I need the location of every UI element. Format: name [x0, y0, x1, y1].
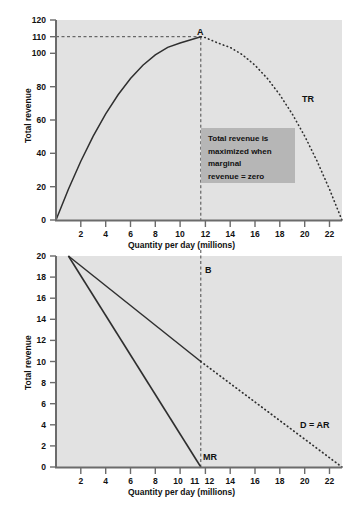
upper-x-tick-22: 22 — [322, 230, 338, 239]
upper-y-tick-100: 100 — [24, 49, 46, 58]
point-a-label: A — [197, 28, 204, 37]
lower-x-tick-8: 8 — [147, 477, 163, 486]
lower-y-tick-0: 0 — [24, 463, 46, 472]
lower-x-tick-11: 11 — [187, 477, 203, 486]
point-b-label: B — [205, 266, 212, 275]
upper-y-tick-80: 80 — [24, 83, 46, 92]
upper-x-tick-12: 12 — [197, 230, 213, 239]
plot-area-background — [56, 256, 342, 467]
d-ar-curve-label: D = AR — [300, 421, 329, 430]
upper-x-tick-10: 10 — [172, 230, 188, 239]
annotation-callout: Total revenue is maximized when marginal… — [201, 128, 295, 183]
lower-x-tick-16: 16 — [247, 477, 263, 486]
upper-x-tick-16: 16 — [247, 230, 263, 239]
lower-x-tick-20: 20 — [297, 477, 313, 486]
upper-y-tick-110: 110 — [24, 33, 46, 42]
marginal-revenue-plot — [0, 250, 363, 507]
upper-x-tick-8: 8 — [147, 230, 163, 239]
upper-x-tick-4: 4 — [98, 230, 114, 239]
lower-y-tick-6: 6 — [24, 400, 46, 409]
tr-curve-label: TR — [302, 95, 314, 104]
lower-y-tick-2: 2 — [24, 442, 46, 451]
lower-x-tick-2: 2 — [73, 477, 89, 486]
lower-y-tick-20: 20 — [24, 252, 46, 261]
lower-y-tick-10: 10 — [24, 358, 46, 367]
lower-y-tick-4: 4 — [24, 421, 46, 430]
lower-x-tick-14: 14 — [222, 477, 238, 486]
lower-y-tick-18: 18 — [24, 273, 46, 282]
upper-y-tick-120: 120 — [24, 16, 46, 25]
lower-x-tick-10: 10 — [170, 477, 186, 486]
lower-x-tick-6: 6 — [123, 477, 139, 486]
lower-x-axis-title: Quantity per day (millions) — [0, 487, 363, 497]
mr-curve-label: MR — [203, 453, 217, 462]
lower-x-tick-12: 12 — [201, 477, 217, 486]
lower-y-tick-12: 12 — [24, 336, 46, 345]
upper-y-tick-20: 20 — [24, 183, 46, 192]
upper-x-tick-14: 14 — [222, 230, 238, 239]
lower-x-tick-4: 4 — [98, 477, 114, 486]
plot-area-background — [56, 20, 342, 220]
total-revenue-plot — [0, 0, 363, 250]
lower-y-tick-16: 16 — [24, 294, 46, 303]
marginal-revenue-chart-panel: Total revenue 20 18 16 14 12 10 8 6 4 2 … — [0, 250, 363, 507]
upper-y-tick-60: 60 — [24, 116, 46, 125]
lower-x-tick-22: 22 — [322, 477, 338, 486]
upper-x-tick-20: 20 — [297, 230, 313, 239]
upper-y-tick-0: 0 — [24, 216, 46, 225]
upper-x-axis-title: Quantity per day (millions) — [0, 240, 363, 250]
lower-y-tick-8: 8 — [24, 379, 46, 388]
upper-x-tick-6: 6 — [123, 230, 139, 239]
total-revenue-chart-panel: Total revenue 120 110 100 80 60 40 20 0 … — [0, 0, 363, 250]
upper-x-tick-18: 18 — [272, 230, 288, 239]
upper-y-tick-40: 40 — [24, 149, 46, 158]
lower-y-tick-14: 14 — [24, 315, 46, 324]
lower-x-tick-18: 18 — [272, 477, 288, 486]
upper-x-tick-2: 2 — [73, 230, 89, 239]
